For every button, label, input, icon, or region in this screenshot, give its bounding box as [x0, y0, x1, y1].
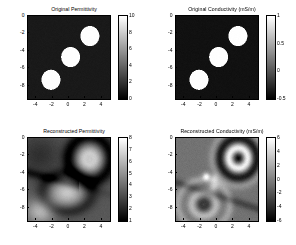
colorbar-tick-label: 0 [277, 176, 280, 181]
y-axis-tick-label: -4 [168, 169, 175, 174]
y-axis-tick [27, 207, 29, 208]
x-axis-tick [183, 96, 184, 98]
x-axis-tick-label: 4 [99, 102, 102, 107]
colorbar-tick-label: 2 [129, 206, 132, 211]
y-axis-tick-label: -6 [20, 187, 27, 192]
x-axis-tick [35, 96, 36, 98]
y-axis-tick [175, 172, 177, 173]
x-axis-tick-label: -4 [33, 224, 37, 229]
x-axis-tick-label: 0 [215, 102, 218, 107]
x-axis-tick-label: 2 [83, 224, 86, 229]
y-axis-tick-label: -6 [168, 187, 175, 192]
panel-reconstructed-permittivity: Reconstructed Permittivity 0-2-4-6-8-4-2… [0, 128, 148, 244]
y-axis-tick [27, 154, 29, 155]
colorbar-tick-label: 0 [129, 96, 132, 101]
y-axis-tick-label: -8 [20, 82, 27, 87]
y-axis-tick [27, 50, 29, 51]
colorbar-tick-label: 8 [129, 135, 132, 140]
x-axis-tick-label: -4 [181, 224, 185, 229]
panel-original-permittivity: Original Permittivity 0-2-4-6-8-4-202410… [0, 6, 148, 122]
x-axis-tick-label: 4 [247, 102, 250, 107]
y-axis-tick-label: -4 [20, 47, 27, 52]
colorbar-tick-label: 8 [129, 29, 132, 34]
colorbar-tick-label: 5 [129, 170, 132, 175]
y-axis-tick-label: -6 [168, 65, 175, 70]
x-axis-tick-label: 0 [67, 102, 70, 107]
x-axis-tick-label: -2 [49, 224, 53, 229]
x-axis-tick [216, 218, 217, 220]
colorbar-tick-label: 10 [129, 13, 135, 18]
colorbar-reconstructed-conductivity [266, 137, 276, 222]
x-axis-tick-label: 4 [99, 224, 102, 229]
colorbar-tick-label: 6 [277, 135, 280, 140]
colorbar-tick-label: 4 [129, 182, 132, 187]
x-axis-tick-label: 2 [83, 102, 86, 107]
y-axis-tick-label: -2 [20, 152, 27, 157]
x-axis-tick [68, 96, 69, 98]
colorbar-tick-label: 1 [129, 218, 132, 223]
y-axis-tick [175, 32, 177, 33]
y-axis-tick [175, 15, 177, 16]
colorbar-tick-label: -4 [277, 204, 281, 209]
colorbar-tick-label: 0 [277, 68, 280, 73]
panel-original-conductivity: Original Conductivity (mS/m) 0-2-4-6-8-4… [148, 6, 296, 122]
x-axis-tick [35, 218, 36, 220]
heatmap-original-conductivity [175, 15, 259, 100]
x-axis-tick [84, 96, 85, 98]
x-axis-tick-label: -4 [181, 102, 185, 107]
x-axis-tick-label: -2 [197, 102, 201, 107]
colorbar-tick-label: 0.5 [277, 40, 284, 45]
y-axis-tick-label: -4 [20, 169, 27, 174]
colorbar-tick-label: 6 [129, 46, 132, 51]
x-axis-tick [232, 96, 233, 98]
heatmap-original-permittivity [27, 15, 111, 100]
x-axis-tick-label: 4 [247, 224, 250, 229]
x-axis-tick [249, 218, 250, 220]
y-axis-tick [175, 67, 177, 68]
x-axis-tick-label: 2 [231, 224, 234, 229]
heatmap-reconstructed-permittivity [27, 137, 111, 222]
y-axis-tick [175, 189, 177, 190]
matlab-figure: Original Permittivity 0-2-4-6-8-4-202410… [0, 0, 296, 245]
x-axis-tick-label: -2 [197, 224, 201, 229]
colorbar-tick-label: 1 [277, 13, 280, 18]
x-axis-tick [84, 218, 85, 220]
colorbar-original-permittivity [118, 15, 128, 100]
x-axis-tick [68, 218, 69, 220]
y-axis-tick [175, 154, 177, 155]
x-axis-tick [200, 218, 201, 220]
y-axis-tick [27, 172, 29, 173]
x-axis-tick [232, 218, 233, 220]
y-axis-tick [27, 85, 29, 86]
y-axis-tick [175, 207, 177, 208]
colorbar-tick-label: 3 [129, 194, 132, 199]
x-axis-tick [52, 218, 53, 220]
x-axis-tick [249, 96, 250, 98]
y-axis-tick-label: -8 [20, 204, 27, 209]
x-axis-tick [52, 96, 53, 98]
colorbar-tick-label: 2 [277, 162, 280, 167]
x-axis-tick-label: 0 [67, 224, 70, 229]
y-axis-tick [27, 32, 29, 33]
heatmap-reconstructed-conductivity [175, 137, 259, 222]
y-axis-tick-label: -2 [168, 30, 175, 35]
y-axis-tick [27, 67, 29, 68]
x-axis-tick-label: 2 [231, 102, 234, 107]
colorbar-tick-label: 4 [277, 148, 280, 153]
y-axis-tick [27, 189, 29, 190]
y-axis-tick-label: -4 [168, 47, 175, 52]
y-axis-tick [175, 50, 177, 51]
y-axis-tick [175, 85, 177, 86]
x-axis-tick-label: -4 [33, 102, 37, 107]
x-axis-tick [101, 96, 102, 98]
colorbar-tick-label: 7 [129, 146, 132, 151]
colorbar-tick-label: -0.5 [277, 96, 286, 101]
colorbar-original-conductivity [266, 15, 276, 100]
colorbar-tick-label: -6 [277, 218, 281, 223]
x-axis-tick [216, 96, 217, 98]
panel-reconstructed-conductivity: Reconstructed Conductivity (mS/m) 0-2-4-… [148, 128, 296, 244]
x-axis-tick-label: -2 [49, 102, 53, 107]
y-axis-tick [175, 137, 177, 138]
colorbar-tick-label: 6 [129, 158, 132, 163]
x-axis-tick [183, 218, 184, 220]
